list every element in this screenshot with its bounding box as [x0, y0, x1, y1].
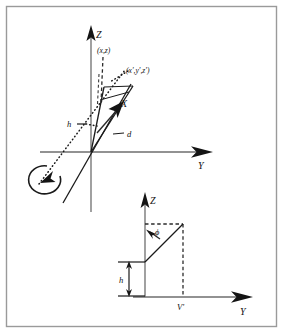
xz-dashed-leader-secondary [98, 74, 100, 104]
point-xz-label: (x,z) [97, 46, 111, 55]
figure-canvas: Z Y X (x,z) (x',y',z') h d [0, 0, 283, 333]
h-label-bottom: h [119, 275, 123, 285]
x-axis-line [97, 110, 117, 133]
v-prime-label: V' [177, 302, 184, 312]
x-axis-label: X [120, 98, 128, 109]
y2-axis-label: Y [240, 306, 247, 317]
figure-root: Z Y X (x,z) (x',y',z') h d [0, 0, 283, 333]
h-label-top: h [67, 119, 71, 129]
point-xyz-prime-label: (x',y',z') [126, 66, 150, 75]
figure-border [7, 7, 277, 327]
d-label: d [127, 129, 132, 139]
z-axis-label: Z [96, 29, 102, 40]
top-diagram-group: Z Y X (x,z) (x',y',z') h d [29, 25, 213, 212]
phi-angle-label: ϕ [155, 228, 160, 237]
hypotenuse-line [145, 224, 183, 262]
y-axis-label: Y [198, 160, 205, 171]
d-leader-line [113, 133, 124, 134]
z2-axis-label: Z [150, 195, 156, 206]
bottom-diagram-group: Z Y ϕ h V' [118, 192, 253, 317]
